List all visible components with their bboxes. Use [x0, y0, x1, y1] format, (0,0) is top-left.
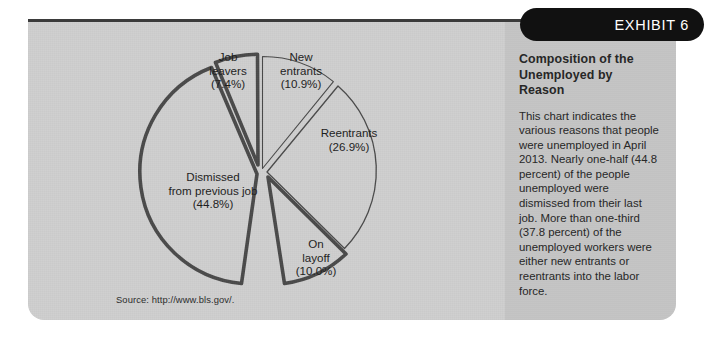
pie-label-new-entrants-line1: New: [265, 50, 337, 64]
exhibit-figure: Job leavers (7.4%) New entrants (10.9%) …: [28, 19, 676, 320]
pie-label-new-entrants-line2: entrants: [265, 64, 337, 78]
exhibit-title: Composition of the Unemployed by Reason: [519, 52, 660, 99]
exhibit-banner-label: EXHIBIT 6: [614, 17, 689, 33]
pie-label-job-leavers-line1: Job: [196, 50, 260, 64]
pie-label-job-leavers-line2: leavers: [196, 64, 260, 78]
description-panel: Composition of the Unemployed by Reason …: [505, 19, 676, 320]
pie-label-job-leavers-line3: (7.4%): [196, 77, 260, 91]
pie-label-new-entrants: New entrants (10.9%): [265, 50, 337, 91]
pie-label-on-layoff-line1: On: [283, 237, 349, 251]
pie-label-on-layoff-line3: (10.0%): [283, 264, 349, 278]
pie-label-job-leavers: Job leavers (7.4%): [196, 50, 260, 91]
pie-label-on-layoff: On layoff (10.0%): [283, 237, 349, 278]
pie-label-dismissed-line3: (44.8%): [137, 197, 289, 211]
pie-chart: Job leavers (7.4%) New entrants (10.9%) …: [28, 22, 505, 323]
exhibit-banner: EXHIBIT 6: [520, 8, 704, 41]
pie-label-dismissed-line1: Dismissed: [137, 170, 289, 184]
chart-panel: Job leavers (7.4%) New entrants (10.9%) …: [28, 19, 505, 320]
exhibit-description: This chart indicates the various reasons…: [519, 109, 660, 299]
pie-label-dismissed: Dismissed from previous job (44.8%): [137, 170, 289, 211]
pie-label-on-layoff-line2: layoff: [283, 251, 349, 265]
pie-label-dismissed-line2: from previous job: [137, 184, 289, 198]
pie-label-reentrants-line2: (26.9%): [305, 140, 393, 154]
pie-label-reentrants: Reentrants (26.9%): [305, 126, 393, 153]
pie-label-reentrants-line1: Reentrants: [305, 126, 393, 140]
pie-label-new-entrants-line3: (10.9%): [265, 77, 337, 91]
source-note: Source: http://www.bls.gov/.: [116, 294, 234, 305]
